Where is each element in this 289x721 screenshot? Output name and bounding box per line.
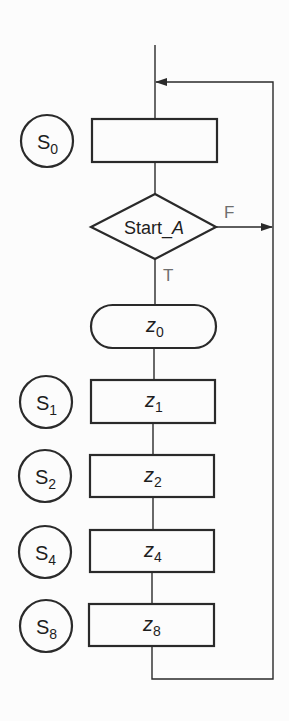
state-output-z4: z4 xyxy=(143,539,162,565)
state-output-z8: z8 xyxy=(142,613,161,639)
conditional-output-z0: z0 xyxy=(91,305,216,348)
state-output-z2: z2 xyxy=(143,464,162,490)
state-label-s0: S0 xyxy=(37,131,58,157)
false-branch-label: F xyxy=(224,203,234,222)
state-s8: S8 z8 xyxy=(20,600,214,652)
asm-flowchart: S0 Start_A F T z0 S1 z1 S2 z2 S4 xyxy=(0,0,289,721)
state-output-z1: z1 xyxy=(144,389,163,415)
state-label-s8: S8 xyxy=(36,616,57,642)
state-label-s2: S2 xyxy=(35,466,56,492)
state-s2: S2 z2 xyxy=(19,450,214,502)
decision-start-a: Start_A F T xyxy=(91,194,234,285)
state-label-s1: S1 xyxy=(36,392,57,418)
true-branch-label: T xyxy=(163,266,173,285)
state-s0: S0 xyxy=(21,115,217,167)
conditional-output-label: z0 xyxy=(145,314,164,340)
state-s1: S1 z1 xyxy=(20,376,215,428)
state-box-s0 xyxy=(92,119,217,162)
decision-label: Start_A xyxy=(124,218,184,239)
state-label-s4: S4 xyxy=(35,542,56,568)
state-s4: S4 z4 xyxy=(19,526,214,578)
